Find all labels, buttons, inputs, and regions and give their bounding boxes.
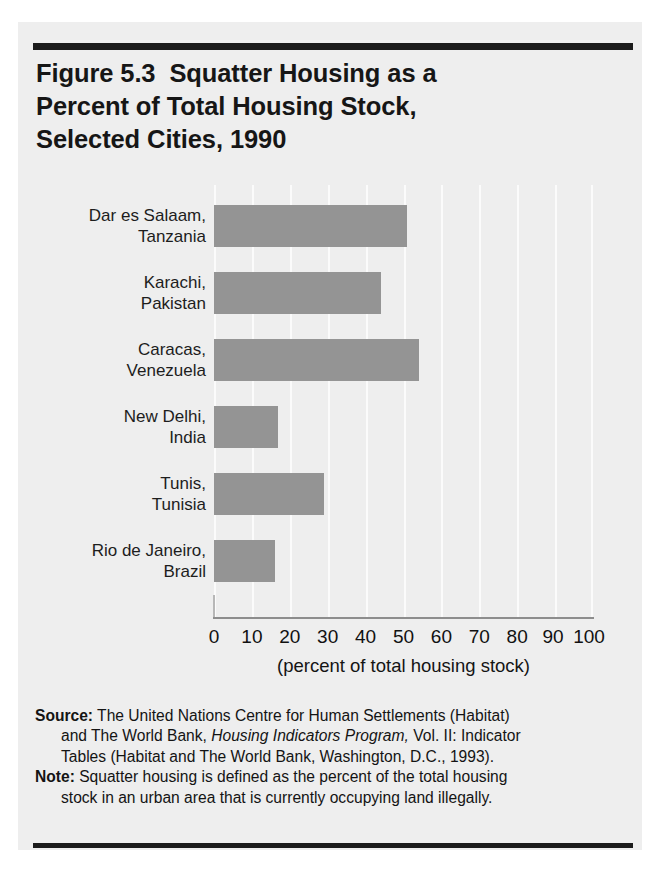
category-label-line: Rio de Janeiro, (36, 540, 206, 561)
bar-caracas (214, 339, 419, 381)
category-label-rio-de-janeiro: Rio de Janeiro, Brazil (36, 540, 206, 582)
bar-dar-es-salaam (214, 205, 407, 247)
source-text-3: Vol. II: Indicator (409, 727, 521, 744)
note-text-2: stock in an urban area that is currently… (61, 789, 492, 806)
category-label-line: India (36, 427, 206, 448)
x-tick-90: 90 (542, 625, 563, 649)
category-label-dar-es-salaam: Dar es Salaam, Tanzania (36, 205, 206, 247)
source-italic-title: Housing Indicators Program, (211, 727, 409, 744)
source-line-2: and The World Bank, Housing Indicators P… (35, 726, 633, 746)
source-text-2: and The World Bank, (61, 727, 211, 744)
category-label-line: Pakistan (36, 293, 206, 314)
x-tick-50: 50 (393, 625, 414, 649)
x-axis-caption: (percent of total housing stock) (214, 654, 593, 678)
x-tick-60: 60 (431, 625, 452, 649)
gridline-50 (404, 185, 406, 617)
category-label-line: Tanzania (36, 226, 206, 247)
bar-karachi (214, 272, 381, 314)
gridline-90 (555, 185, 557, 617)
x-tick-70: 70 (469, 625, 490, 649)
x-tick-40: 40 (355, 625, 376, 649)
category-axis-labels: Dar es Salaam, Tanzania Karachi, Pakista… (36, 185, 206, 617)
gridline-60 (441, 185, 443, 617)
category-label-line: Brazil (36, 561, 206, 582)
category-label-line: Venezuela (36, 360, 206, 381)
x-axis-tick-labels: 0 10 20 30 40 50 60 70 80 90 100 (214, 625, 593, 651)
note-text-1: Squatter housing is defined as the perce… (75, 768, 508, 785)
bar-rio-de-janeiro (214, 540, 275, 582)
figure-card: Figure 5.3 Squatter Housing as a Percent… (0, 0, 659, 870)
category-label-caracas: Caracas, Venezuela (36, 339, 206, 381)
category-label-tunis: Tunis, Tunisia (36, 473, 206, 515)
bar-new-delhi (214, 406, 278, 448)
category-label-line: Tunisia (36, 494, 206, 515)
gridline-70 (479, 185, 481, 617)
source-text-4: Tables (Habitat and The World Bank, Wash… (61, 748, 494, 765)
x-tick-30: 30 (317, 625, 338, 649)
x-tick-10: 10 (241, 625, 262, 649)
axis-origin-tick (213, 595, 215, 619)
x-axis-line (213, 617, 594, 619)
source-line-3: Tables (Habitat and The World Bank, Wash… (35, 747, 633, 767)
source-label: Source: (35, 707, 93, 724)
x-tick-20: 20 (279, 625, 300, 649)
source-line-1: Source: The United Nations Centre for Hu… (35, 706, 633, 726)
category-label-line: Dar es Salaam, (36, 205, 206, 226)
plot-area (214, 185, 593, 617)
definition-note: Note: Squatter housing is defined as the… (35, 767, 633, 808)
source-note: Source: The United Nations Centre for Hu… (35, 706, 633, 767)
footnotes: Source: The United Nations Centre for Hu… (35, 706, 633, 808)
note-label: Note: (35, 768, 75, 785)
category-label-line: Tunis, (36, 473, 206, 494)
category-label-line: Caracas, (36, 339, 206, 360)
source-text-1: The United Nations Centre for Human Sett… (93, 707, 510, 724)
category-label-karachi: Karachi, Pakistan (36, 272, 206, 314)
category-label-line: Karachi, (36, 272, 206, 293)
note-line-1: Note: Squatter housing is defined as the… (35, 767, 633, 787)
x-tick-80: 80 (507, 625, 528, 649)
note-line-2: stock in an urban area that is currently… (35, 788, 633, 808)
bar-tunis (214, 473, 324, 515)
gridline-30 (328, 185, 330, 617)
x-tick-100: 100 (573, 625, 605, 649)
x-tick-0: 0 (209, 625, 220, 649)
category-label-line: New Delhi, (36, 406, 206, 427)
bottom-rule (33, 843, 633, 848)
gridline-20 (290, 185, 292, 617)
gridline-80 (517, 185, 519, 617)
gridline-40 (366, 185, 368, 617)
gridline-100 (591, 185, 593, 617)
category-label-new-delhi: New Delhi, India (36, 406, 206, 448)
